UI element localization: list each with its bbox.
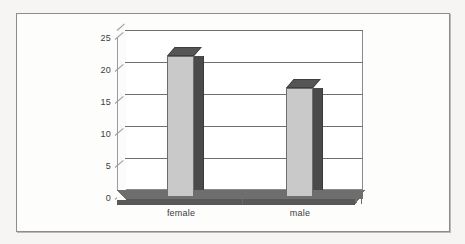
bar-front-face bbox=[167, 56, 194, 196]
x-axis-tick bbox=[361, 199, 362, 204]
gridline bbox=[125, 94, 363, 95]
bar-chart-plot-area: 0510152025 femalemale bbox=[17, 14, 451, 233]
x-axis-label-male: male bbox=[265, 208, 335, 218]
y-axis-depth-panel bbox=[117, 30, 126, 198]
y-axis-tick-label: 25 bbox=[89, 33, 111, 43]
chart-floor-front bbox=[117, 199, 355, 205]
bar-female bbox=[167, 56, 194, 196]
gridline bbox=[125, 126, 363, 127]
plot-back-wall bbox=[125, 30, 363, 190]
chart-floor-right-edge bbox=[355, 190, 365, 205]
y-axis-tick-label: 5 bbox=[89, 161, 111, 171]
bar-side-face bbox=[313, 88, 323, 190]
bar-front-face bbox=[286, 88, 313, 196]
chart-floor-top bbox=[117, 190, 363, 199]
figure-frame: 0510152025 femalemale bbox=[16, 13, 450, 232]
gridline bbox=[125, 30, 363, 31]
gridline bbox=[125, 62, 363, 63]
bar-male bbox=[286, 88, 313, 196]
y-axis-tick-label: 0 bbox=[89, 193, 111, 203]
gridline bbox=[125, 158, 363, 159]
x-axis-tick bbox=[242, 199, 243, 204]
y-axis-line bbox=[117, 38, 118, 198]
y-axis-tick-label: 15 bbox=[89, 97, 111, 107]
chart-floor-left-corner bbox=[117, 190, 127, 200]
x-axis-label-female: female bbox=[146, 208, 216, 218]
y-axis-tick-label: 20 bbox=[89, 65, 111, 75]
bar-side-face bbox=[194, 56, 204, 190]
y-axis-tick-label: 10 bbox=[89, 129, 111, 139]
